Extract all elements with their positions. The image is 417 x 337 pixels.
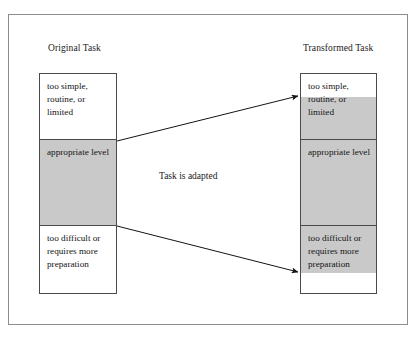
cell-original-appropriate-level: appropriate level — [40, 140, 116, 226]
cell-original-too-simple-label: too simple, routine, or limited — [47, 80, 112, 120]
task-column-original: too simple, routine, or limited appropri… — [39, 73, 117, 294]
cell-transformed-appropriate-level: appropriate level — [301, 140, 376, 226]
task-column-transformed: too simple, routine, or limited appropri… — [300, 73, 377, 294]
cell-original-too-difficult: too difficult or requires more preparati… — [40, 226, 116, 293]
column-heading-original: Original Task — [48, 43, 101, 54]
cell-transformed-too-simple-label: too simple, routine, or limited — [308, 80, 372, 120]
column-heading-transformed: Transformed Task — [303, 43, 373, 54]
cell-transformed-too-difficult: too difficult or requires more preparati… — [301, 226, 376, 293]
cell-original-too-simple: too simple, routine, or limited — [40, 74, 116, 140]
cell-transformed-too-simple: too simple, routine, or limited — [301, 74, 376, 140]
figure-root: Original Task Transformed Task too simpl… — [0, 0, 417, 337]
cell-original-appropriate-level-label: appropriate level — [47, 146, 112, 159]
caption-task-is-adapted: Task is adapted — [159, 170, 217, 182]
cell-original-too-difficult-label: too difficult or requires more preparati… — [47, 232, 112, 272]
cell-transformed-too-difficult-label: too difficult or requires more preparati… — [308, 232, 372, 272]
cell-transformed-appropriate-level-label: appropriate level — [308, 146, 372, 159]
